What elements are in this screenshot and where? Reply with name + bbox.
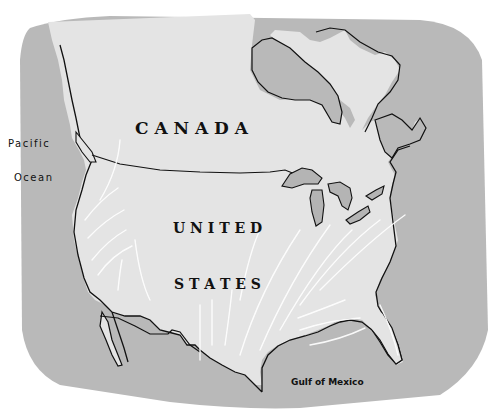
- north-america-map: C A N A D A U N I T E D S T A T E S Paci…: [0, 0, 499, 415]
- label-ocean: Ocean: [14, 172, 54, 183]
- label-canada: C A N A D A: [135, 118, 249, 138]
- label-states: S T A T E S: [174, 276, 261, 292]
- label-gulf-of-mexico: Gulf of Mexico: [291, 377, 364, 387]
- label-pacific: Pacific: [8, 138, 50, 149]
- label-united: U N I T E D: [173, 220, 262, 236]
